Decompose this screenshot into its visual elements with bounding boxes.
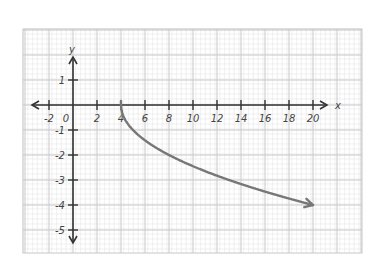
x-tick-label: 2	[94, 113, 100, 124]
y-tick-label: -2	[55, 150, 65, 161]
x-tick-label: 6	[142, 113, 148, 124]
x-tick-label: 14	[235, 113, 248, 124]
x-tick-label: 18	[283, 113, 296, 124]
x-tick-label: 16	[259, 113, 272, 124]
x-tick-label: 8	[166, 113, 172, 124]
x-axis-label: x	[334, 100, 341, 111]
x-tick-label: -2	[44, 113, 54, 124]
x-tick-label: 12	[211, 113, 224, 124]
graph: y x -202468101214161820 1-1-2-3-4-5	[0, 0, 369, 262]
y-axis-label: y	[68, 44, 76, 55]
x-tick-label: 10	[187, 113, 200, 124]
x-tick-label: 0	[63, 113, 69, 124]
y-tick-label: 1	[59, 75, 65, 86]
y-tick-label: -4	[55, 200, 65, 211]
y-tick-label: -1	[55, 125, 65, 136]
y-tick-label: -3	[55, 175, 65, 186]
y-tick-label: -5	[55, 225, 65, 236]
x-tick-label: 20	[307, 113, 320, 124]
